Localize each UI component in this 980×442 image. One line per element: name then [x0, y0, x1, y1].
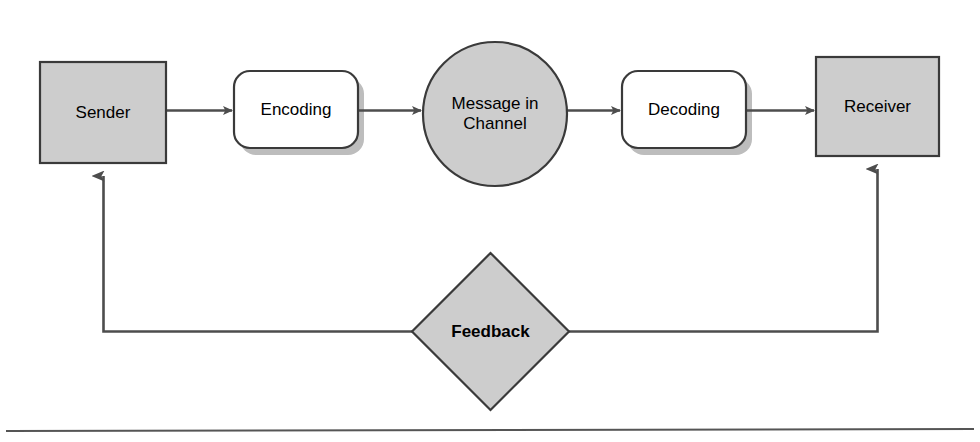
feedback-diamond[interactable] — [412, 253, 569, 410]
sender-box[interactable] — [40, 62, 166, 163]
footer-rule — [6, 429, 974, 431]
encoding-box[interactable] — [234, 71, 358, 148]
feedback-to-sender-connector — [104, 176, 413, 332]
decoding-box[interactable] — [622, 71, 746, 148]
message-in-channel-circle[interactable] — [423, 42, 567, 186]
receiver-box[interactable] — [816, 57, 939, 156]
diagram-canvas: Sender Encoding Message in Channel Decod… — [0, 0, 980, 442]
diagram-graphics — [0, 0, 980, 442]
feedback-to-receiver-connector — [569, 169, 878, 332]
